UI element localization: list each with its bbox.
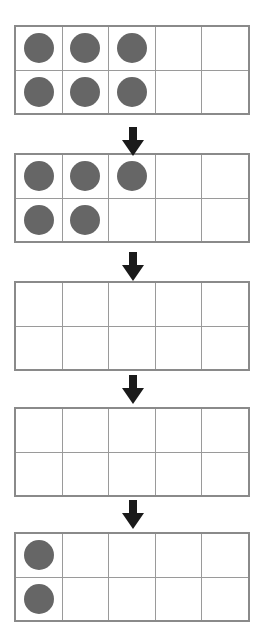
ten-frame-worksheet [0, 0, 265, 637]
counter-dot [24, 77, 54, 107]
ten-frame-4-top-row-cell-2[interactable] [63, 409, 110, 452]
ten-frame-3-bottom-row-cell-1[interactable] [16, 327, 63, 370]
arrow-down-icon [121, 375, 145, 405]
ten-frame-3-bottom-row-cell-3[interactable] [109, 327, 156, 370]
ten-frame-2-bottom-row-cell-2[interactable] [63, 199, 110, 242]
counter-dot [24, 584, 54, 614]
counter-dot [24, 33, 54, 63]
ten-frame-5-bottom-row-cell-5[interactable] [202, 578, 248, 621]
ten-frame-2-top-row-cell-1[interactable] [16, 155, 63, 198]
ten-frame-2[interactable] [14, 153, 250, 243]
ten-frame-1-top-row-cell-4[interactable] [156, 27, 203, 70]
ten-frame-5-bottom-row [16, 578, 248, 621]
ten-frame-1-top-row-cell-1[interactable] [16, 27, 63, 70]
arrow-down-icon [121, 252, 145, 282]
ten-frame-4-bottom-row-cell-1[interactable] [16, 453, 63, 496]
ten-frame-1-top-row-cell-2[interactable] [63, 27, 110, 70]
ten-frame-5[interactable] [14, 532, 250, 622]
counter-dot [70, 77, 100, 107]
counter-dot [117, 33, 147, 63]
ten-frame-3-top-row-cell-1[interactable] [16, 283, 63, 326]
ten-frame-4-top-row-cell-3[interactable] [109, 409, 156, 452]
ten-frame-1-top-row-cell-5[interactable] [202, 27, 248, 70]
ten-frame-2-bottom-row-cell-3[interactable] [109, 199, 156, 242]
ten-frame-5-top-row-cell-4[interactable] [156, 534, 203, 577]
arrow-down-icon [121, 127, 145, 157]
counter-dot [70, 161, 100, 191]
counter-dot [117, 161, 147, 191]
ten-frame-1-bottom-row-cell-4[interactable] [156, 71, 203, 114]
ten-frame-5-top-row-cell-5[interactable] [202, 534, 248, 577]
ten-frame-5-bottom-row-cell-4[interactable] [156, 578, 203, 621]
ten-frame-3-bottom-row-cell-2[interactable] [63, 327, 110, 370]
ten-frame-1-bottom-row-cell-2[interactable] [63, 71, 110, 114]
ten-frame-4-bottom-row-cell-4[interactable] [156, 453, 203, 496]
ten-frame-4-top-row [16, 409, 248, 453]
ten-frame-3-bottom-row-cell-4[interactable] [156, 327, 203, 370]
ten-frame-5-bottom-row-cell-1[interactable] [16, 578, 63, 621]
ten-frame-1-bottom-row [16, 71, 248, 114]
ten-frame-3[interactable] [14, 281, 250, 371]
ten-frame-3-bottom-row [16, 327, 248, 370]
ten-frame-1-bottom-row-cell-1[interactable] [16, 71, 63, 114]
ten-frame-2-top-row-cell-5[interactable] [202, 155, 248, 198]
ten-frame-4-top-row-cell-4[interactable] [156, 409, 203, 452]
ten-frame-4-bottom-row-cell-5[interactable] [202, 453, 248, 496]
ten-frame-3-top-row-cell-3[interactable] [109, 283, 156, 326]
ten-frame-2-bottom-row-cell-4[interactable] [156, 199, 203, 242]
ten-frame-5-bottom-row-cell-2[interactable] [63, 578, 110, 621]
ten-frame-4-top-row-cell-5[interactable] [202, 409, 248, 452]
ten-frame-5-top-row [16, 534, 248, 578]
ten-frame-2-bottom-row [16, 199, 248, 242]
ten-frame-4-bottom-row-cell-3[interactable] [109, 453, 156, 496]
arrow-down-icon [121, 500, 145, 530]
ten-frame-1-bottom-row-cell-3[interactable] [109, 71, 156, 114]
ten-frame-2-top-row [16, 155, 248, 199]
ten-frame-3-top-row-cell-5[interactable] [202, 283, 248, 326]
ten-frame-5-top-row-cell-3[interactable] [109, 534, 156, 577]
counter-dot [70, 33, 100, 63]
ten-frame-5-top-row-cell-1[interactable] [16, 534, 63, 577]
ten-frame-2-bottom-row-cell-5[interactable] [202, 199, 248, 242]
ten-frame-3-top-row [16, 283, 248, 327]
ten-frame-2-bottom-row-cell-1[interactable] [16, 199, 63, 242]
ten-frame-3-top-row-cell-4[interactable] [156, 283, 203, 326]
ten-frame-2-top-row-cell-4[interactable] [156, 155, 203, 198]
counter-dot [70, 205, 100, 235]
ten-frame-1-top-row-cell-3[interactable] [109, 27, 156, 70]
ten-frame-4-bottom-row-cell-2[interactable] [63, 453, 110, 496]
counter-dot [24, 540, 54, 570]
counter-dot [24, 205, 54, 235]
ten-frame-3-bottom-row-cell-5[interactable] [202, 327, 248, 370]
ten-frame-1-bottom-row-cell-5[interactable] [202, 71, 248, 114]
ten-frame-2-top-row-cell-2[interactable] [63, 155, 110, 198]
counter-dot [24, 161, 54, 191]
ten-frame-3-top-row-cell-2[interactable] [63, 283, 110, 326]
ten-frame-4-bottom-row [16, 453, 248, 496]
ten-frame-1-top-row [16, 27, 248, 71]
ten-frame-5-top-row-cell-2[interactable] [63, 534, 110, 577]
ten-frame-4[interactable] [14, 407, 250, 497]
counter-dot [117, 77, 147, 107]
ten-frame-2-top-row-cell-3[interactable] [109, 155, 156, 198]
ten-frame-4-top-row-cell-1[interactable] [16, 409, 63, 452]
ten-frame-5-bottom-row-cell-3[interactable] [109, 578, 156, 621]
ten-frame-1[interactable] [14, 25, 250, 115]
